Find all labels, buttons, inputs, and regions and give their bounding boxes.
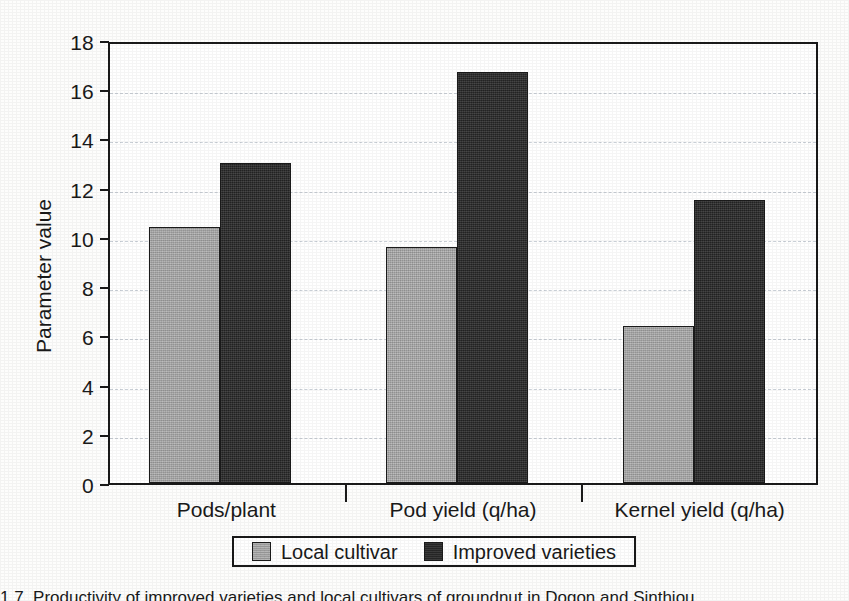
y-axis-tick-label: 12 (70, 179, 94, 200)
figure-caption-text: 1.7. Productivity of improved varieties … (0, 589, 849, 601)
y-axis-tick-label: 4 (82, 376, 94, 397)
y-axis-tick-label: 14 (70, 130, 94, 151)
y-axis-tick-label: 0 (82, 475, 94, 496)
legend-entry-local-cultivar: Local cultivar (252, 542, 398, 562)
chart-legend: Local cultivar Improved varieties (232, 536, 636, 567)
bar-pods-plant-local-cultivar (149, 227, 220, 483)
legend-label-improved-varieties: Improved varieties (453, 542, 616, 562)
x-axis-separator-tick (345, 485, 347, 502)
bar-pod-yield-q-ha-improved-varieties (457, 72, 528, 483)
y-axis-tick-label: 10 (70, 228, 94, 249)
x-axis-category-label: Pods/plant (177, 498, 276, 522)
x-axis-separator-tick (581, 485, 583, 502)
x-axis-category-label: Pod yield (q/ha) (389, 498, 536, 522)
legend-entry-improved-varieties: Improved varieties (424, 542, 616, 562)
y-axis-tick-label: 2 (82, 425, 94, 446)
legend-label-local-cultivar: Local cultivar (281, 542, 398, 562)
bar-pods-plant-improved-varieties (220, 163, 291, 483)
y-axis-tick-label: 6 (82, 327, 94, 348)
figure-caption: 1.7. Productivity of improved varieties … (0, 589, 849, 601)
plot-area (108, 42, 818, 485)
bar-kernel-yield-q-ha-improved-varieties (694, 200, 765, 483)
y-axis-tick-label: 8 (82, 278, 94, 299)
legend-swatch-local-cultivar (252, 542, 271, 561)
bar-pod-yield-q-ha-local-cultivar (386, 247, 457, 483)
y-axis-tick-label: 16 (70, 81, 94, 102)
y-axis-title: Parameter value (32, 146, 56, 406)
bar-chart-figure: 181614121086420 Parameter value Pods/pla… (0, 0, 849, 601)
y-axis-tick-label: 18 (70, 32, 94, 53)
legend-swatch-improved-varieties (424, 542, 443, 561)
bar-kernel-yield-q-ha-local-cultivar (623, 326, 694, 484)
x-axis-category-label: Kernel yield (q/ha) (614, 498, 784, 522)
